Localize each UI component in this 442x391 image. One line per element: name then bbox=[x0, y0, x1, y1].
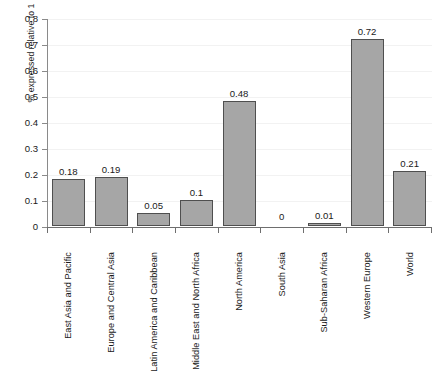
bar: 0 bbox=[265, 226, 298, 227]
x-axis-category-label: Sub-Saharan Africa bbox=[318, 252, 331, 391]
x-axis-tick bbox=[346, 228, 347, 233]
x-axis-category-label: South Asia bbox=[275, 252, 288, 391]
y-axis-tick: 0.4 bbox=[42, 123, 48, 124]
x-axis-category-label: East Asia and Pacific bbox=[62, 252, 75, 391]
bar: 0.05 bbox=[137, 213, 170, 226]
y-axis-tick-label: 0.5 bbox=[25, 90, 38, 103]
y-axis-tick: 0.1 bbox=[42, 201, 48, 202]
bar: 0.18 bbox=[52, 179, 85, 226]
bar-chart-figure: % expressed relative to 1 0.80.70.60.50.… bbox=[0, 0, 442, 391]
y-axis-tick: 0.2 bbox=[42, 175, 48, 176]
y-axis-tick: 0.6 bbox=[42, 71, 48, 72]
x-axis-tick bbox=[132, 228, 133, 233]
bar-value-label: 0.72 bbox=[358, 26, 377, 38]
y-axis-tick-label: 0.8 bbox=[25, 12, 38, 25]
bar: 0.21 bbox=[393, 171, 426, 226]
bar-value-label: 0.48 bbox=[230, 88, 249, 100]
x-axis-tick bbox=[175, 228, 176, 233]
y-axis-tick-label: 0.6 bbox=[25, 64, 38, 77]
y-axis-tick-label: 0.7 bbox=[25, 38, 38, 51]
y-axis-tick-label: 0.3 bbox=[25, 142, 38, 155]
gridline bbox=[48, 19, 432, 20]
x-axis-tick bbox=[303, 228, 304, 233]
y-axis-tick: 0.8 bbox=[42, 19, 48, 20]
x-axis-category-label: Western Europe bbox=[361, 252, 374, 391]
x-axis-tick bbox=[218, 228, 219, 233]
x-axis-tick bbox=[47, 228, 48, 233]
bar-value-label: 0.18 bbox=[59, 166, 78, 178]
x-axis-tick bbox=[90, 228, 91, 233]
bar: 0.72 bbox=[351, 39, 384, 226]
plot-area: 0.80.70.60.50.40.30.20.10 0.180.190.050.… bbox=[47, 19, 431, 227]
bar: 0.1 bbox=[180, 200, 213, 226]
x-axis-category-label: North America bbox=[233, 252, 246, 391]
y-axis-tick: 0.3 bbox=[42, 149, 48, 150]
x-axis-tick bbox=[431, 228, 432, 233]
x-axis-line bbox=[47, 227, 432, 228]
bar-value-label: 0.21 bbox=[400, 158, 419, 170]
x-axis-category-label: Middle East and North Africa bbox=[190, 252, 203, 391]
bar: 0.01 bbox=[308, 223, 341, 226]
x-axis-category-label: Europe and Central Asia bbox=[105, 252, 118, 391]
x-axis-tick bbox=[388, 228, 389, 233]
bar-value-label: 0.01 bbox=[315, 210, 334, 222]
bar-value-label: 0.19 bbox=[102, 164, 121, 176]
bar-value-label: 0 bbox=[279, 211, 284, 223]
bar-value-label: 0.1 bbox=[190, 187, 203, 199]
y-axis-tick-label: 0.4 bbox=[25, 116, 38, 129]
bar: 0.19 bbox=[95, 177, 128, 226]
bar-value-label: 0.05 bbox=[144, 200, 163, 212]
x-axis-tick bbox=[260, 228, 261, 233]
bar: 0.48 bbox=[223, 101, 256, 226]
y-axis-tick: 0.5 bbox=[42, 97, 48, 98]
y-axis-tick-label: 0.1 bbox=[25, 194, 38, 207]
x-axis-category-label: World bbox=[403, 252, 416, 391]
y-axis-tick: 0.7 bbox=[42, 45, 48, 46]
x-axis-category-label: Latin America and Caribbean bbox=[147, 252, 160, 391]
y-axis-tick-label: 0.2 bbox=[25, 168, 38, 181]
y-axis-tick-label: 0 bbox=[33, 220, 38, 233]
